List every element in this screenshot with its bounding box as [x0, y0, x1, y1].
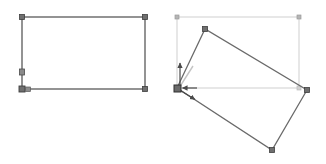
corner-handle-bottom[interactable]: [270, 148, 275, 153]
corner-handle-top-left[interactable]: [20, 15, 25, 20]
corner-handle-bottom-left[interactable]: [19, 86, 25, 92]
selection-bounding-box[interactable]: [177, 17, 299, 88]
edge-handle-left[interactable]: [20, 69, 25, 75]
corner-handle-bottom-right[interactable]: [143, 87, 148, 92]
right-figure[interactable]: [174, 15, 310, 153]
bbox-handle-top-right[interactable]: [297, 15, 301, 19]
anchor-handle-bottom-left[interactable]: [26, 87, 31, 92]
corner-handle-right[interactable]: [305, 88, 310, 93]
diagram-canvas: [0, 0, 326, 164]
left-figure[interactable]: [19, 15, 148, 93]
corner-handle-top-right[interactable]: [143, 15, 148, 20]
corner-handle-pivot[interactable]: [174, 85, 181, 92]
axis-aligned-rectangle[interactable]: [22, 17, 145, 89]
bbox-handle-top-left[interactable]: [175, 15, 179, 19]
diagram-svg: [0, 0, 326, 164]
rotated-rectangle[interactable]: [177, 29, 307, 150]
corner-handle-top[interactable]: [203, 27, 208, 32]
